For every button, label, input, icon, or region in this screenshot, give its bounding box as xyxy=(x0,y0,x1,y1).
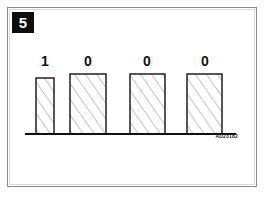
figure-frame xyxy=(7,7,257,187)
step-number-text: 5 xyxy=(19,15,27,30)
figure-frame-inner xyxy=(9,9,255,185)
bar-value-label: 0 xyxy=(143,54,151,68)
step-number-badge: 5 xyxy=(12,12,34,33)
figure-reference-code: AD23182 xyxy=(215,133,238,139)
bar-value-label: 0 xyxy=(84,54,92,68)
bar-value-label: 1 xyxy=(41,54,49,68)
bar-value-label: 0 xyxy=(201,54,209,68)
figure-root: 5 1000 AD23182 xyxy=(0,0,267,197)
